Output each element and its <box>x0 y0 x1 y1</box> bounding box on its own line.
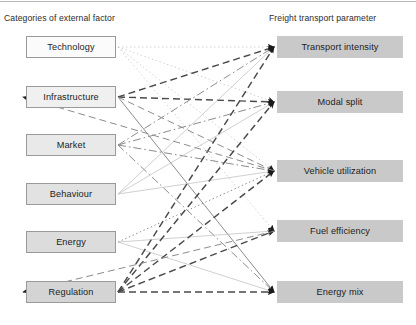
diagram-canvas: Categories of external factor Freight tr… <box>0 0 416 325</box>
edge-technology-to-vehicle-utilization <box>118 47 274 171</box>
top-divider <box>0 1 416 2</box>
edge-infrastructure-to-modal-split <box>118 97 274 102</box>
node-fuel-efficiency: Fuel efficiency <box>277 220 403 242</box>
edge-energy-to-energy-mix <box>118 242 274 292</box>
node-label: Market <box>57 140 86 150</box>
edge-energy-to-vehicle-utilization <box>118 171 274 242</box>
node-technology: Technology <box>26 36 116 58</box>
edge-behaviour-to-vehicle-utilization <box>118 171 274 194</box>
node-modal-split: Modal split <box>277 91 403 113</box>
node-label: Infrastructure <box>43 92 99 102</box>
edge-energy-to-fuel-efficiency <box>118 231 274 242</box>
edge-regulation-to-fuel-efficiency <box>118 231 274 292</box>
edge-technology-to-modal-split <box>118 47 274 102</box>
node-label: Modal split <box>317 97 362 107</box>
node-energy: Energy <box>26 231 116 253</box>
edge-regulation-to-vehicle-utilization <box>118 171 274 292</box>
edge-technology-to-fuel-efficiency <box>118 47 274 231</box>
node-label: Energy <box>56 237 86 247</box>
edge-market-to-vehicle-utilization <box>118 145 274 171</box>
node-label: Regulation <box>49 287 94 297</box>
node-vehicle-utilization: Vehicle utilization <box>277 160 403 182</box>
node-infrastructure: Infrastructure <box>26 86 116 108</box>
edge-market-to-transport-intensity <box>118 47 274 145</box>
edge-regulation-to-modal-split <box>118 102 274 292</box>
edge-behaviour-to-modal-split <box>118 102 274 194</box>
node-label: Behaviour <box>50 189 92 199</box>
edge-infrastructure-to-transport-intensity <box>118 47 274 97</box>
edge-infrastructure-to-energy-mix <box>118 97 274 292</box>
node-energy-mix: Energy mix <box>277 281 403 303</box>
edge-market-to-energy-mix <box>118 145 274 292</box>
node-label: Transport intensity <box>301 42 378 52</box>
edge-regulation-to-transport-intensity <box>118 47 274 292</box>
node-label: Energy mix <box>317 287 364 297</box>
edge-infrastructure-to-vehicle-utilization <box>118 97 274 171</box>
edge-behaviour-to-transport-intensity <box>118 47 274 194</box>
node-label: Vehicle utilization <box>304 166 376 176</box>
node-label: Technology <box>47 42 94 52</box>
left-column-header: Categories of external factor <box>4 13 115 23</box>
node-label: Fuel efficiency <box>310 226 370 236</box>
node-transport-intensity: Transport intensity <box>277 36 403 58</box>
right-column-header: Freight transport parameter <box>269 13 376 23</box>
node-market: Market <box>26 134 116 156</box>
node-behaviour: Behaviour <box>26 183 116 205</box>
node-regulation: Regulation <box>26 281 116 303</box>
edge-market-to-modal-split <box>118 102 274 145</box>
